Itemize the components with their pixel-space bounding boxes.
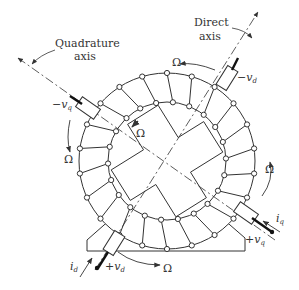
svg-text:+vd: +vd xyxy=(105,260,125,274)
minus-vq-label: −vq xyxy=(52,98,72,112)
brush-q-left xyxy=(70,96,100,119)
svg-text:−vq: −vq xyxy=(52,98,72,112)
plus-vq-label: +vq xyxy=(245,233,265,247)
svg-text:iq: iq xyxy=(276,212,285,226)
omega-label-top: Ω xyxy=(172,56,181,69)
direct-axis-label-line2: axis xyxy=(199,30,221,43)
omega-label-bottom: Ω xyxy=(163,262,172,275)
svg-text:−vd: −vd xyxy=(237,71,257,85)
omega-label-rotor: Ω xyxy=(136,127,145,140)
omega-label-right: Ω xyxy=(265,163,274,176)
svg-text:+vq: +vq xyxy=(245,233,265,247)
quadrature-axis-label-line1: Quadrature xyxy=(55,37,120,50)
direct-axis-label-line1: Direct xyxy=(194,16,229,29)
svg-text:id: id xyxy=(70,260,79,274)
brush-d-top xyxy=(216,58,238,91)
id-label: id xyxy=(70,260,79,274)
iq-label: iq xyxy=(276,212,285,226)
brush-q-right xyxy=(234,202,275,234)
omega-label-left: Ω xyxy=(64,153,73,166)
plus-vd-label: +vd xyxy=(105,260,125,274)
machine-diagram: Quadrature axis Direct axis Ω Ω Ω Ω Ω −v… xyxy=(0,0,299,290)
quadrature-axis-label-line2: axis xyxy=(74,50,96,63)
minus-vd-label: −vd xyxy=(237,71,257,85)
